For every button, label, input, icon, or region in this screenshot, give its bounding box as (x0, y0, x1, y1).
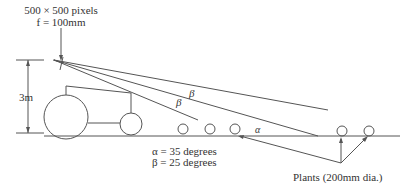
arrow-up-icon (339, 137, 343, 143)
alpha-label: α (255, 124, 261, 135)
plant (364, 126, 374, 136)
resolution-label: 500 × 500 pixels (24, 4, 98, 16)
tractor-body-top (66, 86, 131, 113)
camera-geometry-diagram: 500 × 500 pixels f = 100mm 3m β β α α = … (0, 0, 412, 189)
beta-value-label: β = 25 degrees (152, 156, 217, 168)
arrow-down-icon (26, 127, 30, 133)
beta-lower-label: β (175, 96, 182, 108)
tractor-front-wheel (120, 113, 142, 135)
plant (230, 124, 240, 134)
view-ray-bottom (54, 60, 198, 120)
plant (178, 124, 188, 134)
plant (337, 126, 347, 136)
height-label: 3m (19, 91, 34, 103)
plant-pointer-line (341, 138, 366, 163)
focal-length-label: f = 100mm (37, 16, 86, 28)
view-ray-top (54, 60, 328, 110)
plants-label: Plants (200mm dia.) (293, 171, 383, 184)
arrow-up-icon (26, 60, 30, 66)
tractor-rear-wheel (44, 95, 88, 139)
plant-pointer-line (240, 136, 341, 163)
beta-upper-label: β (188, 87, 195, 99)
plant (205, 124, 215, 134)
